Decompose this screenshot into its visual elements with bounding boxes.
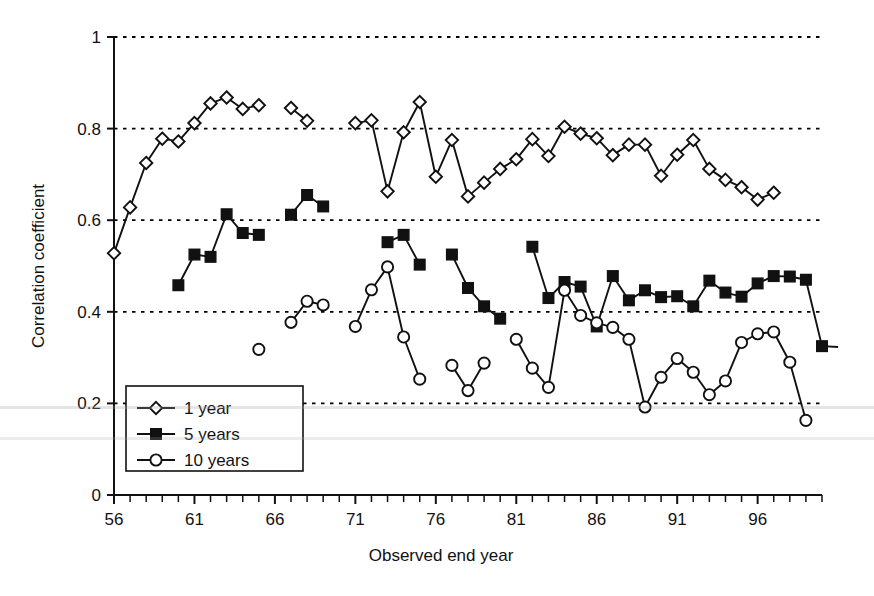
data-point-1-3 xyxy=(221,209,232,220)
data-point-2-6 xyxy=(382,261,393,272)
legend-marker-open-circle xyxy=(150,454,161,465)
data-point-1-30 xyxy=(752,278,763,289)
data-point-1-33 xyxy=(801,274,812,285)
data-point-2-5 xyxy=(366,284,377,295)
x-tick-label-56: 56 xyxy=(105,510,124,529)
data-point-2-26 xyxy=(736,337,747,348)
data-point-1-32 xyxy=(785,271,796,282)
data-point-1-0 xyxy=(173,280,184,291)
data-point-1-10 xyxy=(398,230,409,241)
chart-legend: 1 year5 years10 years xyxy=(126,386,303,471)
data-point-1-25 xyxy=(672,291,683,302)
x-tick-label-76: 76 xyxy=(426,510,445,529)
data-point-2-7 xyxy=(398,331,409,342)
data-point-2-17 xyxy=(591,317,602,328)
data-point-2-14 xyxy=(543,382,554,393)
data-point-2-22 xyxy=(672,353,683,364)
data-point-2-25 xyxy=(720,375,731,386)
data-point-1-28 xyxy=(720,287,731,298)
data-point-2-9 xyxy=(446,360,457,371)
data-point-1-19 xyxy=(575,281,586,292)
data-point-1-5 xyxy=(254,230,265,241)
data-point-1-6 xyxy=(286,209,297,220)
legend-label-2: 10 years xyxy=(184,451,249,470)
data-point-1-16 xyxy=(527,241,538,252)
data-point-2-24 xyxy=(704,389,715,400)
data-point-1-22 xyxy=(624,295,635,306)
x-tick-label-71: 71 xyxy=(346,510,365,529)
data-point-1-24 xyxy=(656,292,667,303)
data-point-2-12 xyxy=(511,334,522,345)
y-axis-title: Correlation coefficient xyxy=(29,184,48,348)
x-tick-label-66: 66 xyxy=(265,510,284,529)
data-point-1-23 xyxy=(640,285,651,296)
data-point-2-10 xyxy=(462,385,473,396)
data-point-2-1 xyxy=(285,317,296,328)
chart-figure: 00.20.40.60.81 566166717681869196 Observ… xyxy=(0,0,874,596)
data-point-1-17 xyxy=(543,293,554,304)
y-tick-label-0.2: 0.2 xyxy=(77,394,101,413)
data-point-2-23 xyxy=(688,367,699,378)
data-point-1-15 xyxy=(495,313,506,324)
data-point-1-8 xyxy=(318,201,329,212)
data-point-2-30 xyxy=(800,415,811,426)
x-tick-label-81: 81 xyxy=(507,510,526,529)
data-point-2-18 xyxy=(607,322,618,333)
data-point-2-2 xyxy=(301,296,312,307)
data-point-1-13 xyxy=(463,283,474,294)
data-point-2-13 xyxy=(527,363,538,374)
legend-marker-filled-square xyxy=(151,429,162,440)
x-tick-label-86: 86 xyxy=(587,510,606,529)
data-point-2-0 xyxy=(253,344,264,355)
x-tick-label-61: 61 xyxy=(185,510,204,529)
data-point-1-29 xyxy=(736,291,747,302)
data-point-2-29 xyxy=(784,357,795,368)
data-point-1-21 xyxy=(608,271,619,282)
data-point-2-3 xyxy=(318,299,329,310)
data-point-1-27 xyxy=(704,275,715,286)
y-tick-label-0.4: 0.4 xyxy=(77,303,101,322)
data-point-1-11 xyxy=(414,259,425,270)
y-tick-label-0.6: 0.6 xyxy=(77,211,101,230)
data-point-2-27 xyxy=(752,328,763,339)
data-point-2-28 xyxy=(768,326,779,337)
y-tick-label-1: 1 xyxy=(92,28,101,47)
data-point-2-8 xyxy=(414,374,425,385)
data-point-1-14 xyxy=(479,301,490,312)
data-point-1-2 xyxy=(205,252,216,263)
y-tick-label-0: 0 xyxy=(92,486,101,505)
x-tick-label-91: 91 xyxy=(668,510,687,529)
data-point-2-16 xyxy=(575,310,586,321)
data-point-2-4 xyxy=(350,321,361,332)
x-tick-label-96: 96 xyxy=(748,510,767,529)
legend-label-0: 1 year xyxy=(184,399,232,418)
data-point-1-34 xyxy=(817,341,828,352)
data-point-2-15 xyxy=(559,285,570,296)
data-point-1-7 xyxy=(302,190,313,201)
data-point-2-21 xyxy=(655,372,666,383)
legend-label-1: 5 years xyxy=(184,425,240,444)
data-point-1-9 xyxy=(382,237,393,248)
data-point-2-11 xyxy=(478,357,489,368)
correlation-coefficient-line-chart: 00.20.40.60.81 566166717681869196 Observ… xyxy=(0,0,874,596)
data-point-2-20 xyxy=(639,401,650,412)
data-point-1-26 xyxy=(688,301,699,312)
data-point-1-12 xyxy=(447,249,458,260)
data-point-1-1 xyxy=(189,249,200,260)
x-axis-title: Observed end year xyxy=(369,546,514,565)
data-point-1-4 xyxy=(237,228,248,239)
y-tick-label-0.8: 0.8 xyxy=(77,120,101,139)
data-point-1-31 xyxy=(768,271,779,282)
data-point-2-19 xyxy=(623,334,634,345)
